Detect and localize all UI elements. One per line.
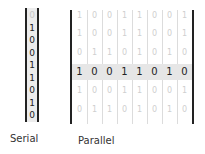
serial-bit: 0 xyxy=(27,85,37,95)
parallel-bit: 0 xyxy=(102,64,117,80)
parallel-bit: 1 xyxy=(177,83,192,99)
parallel-bit: 1 xyxy=(72,64,87,80)
parallel-bit: 0 xyxy=(147,8,162,24)
parallel-bit: 1 xyxy=(117,64,132,80)
parallel-bit: 1 xyxy=(132,45,147,61)
parallel-bit: 0 xyxy=(102,26,117,42)
parallel-bit: 0 xyxy=(177,64,192,80)
parallel-bit: 0 xyxy=(147,26,162,42)
parallel-bit: 0 xyxy=(117,45,132,61)
parallel-bit: 0 xyxy=(177,45,192,61)
parallel-bit: 0 xyxy=(102,8,117,24)
serial-bit: 0 xyxy=(27,10,37,20)
parallel-bit: 0 xyxy=(147,83,162,99)
serial-bit: 1 xyxy=(27,23,37,33)
serial-bit: 0 xyxy=(27,35,37,45)
parallel-bit: 0 xyxy=(117,102,132,118)
parallel-row: 10011001 xyxy=(72,8,192,24)
parallel-bit: 1 xyxy=(132,26,147,42)
parallel-bit: 1 xyxy=(132,102,147,118)
parallel-bit: 1 xyxy=(72,26,87,42)
parallel-bit: 0 xyxy=(72,102,87,118)
parallel-bit: 1 xyxy=(117,26,132,42)
parallel-bit: 1 xyxy=(177,8,192,24)
parallel-bit: 1 xyxy=(87,102,102,118)
parallel-bit: 0 xyxy=(87,64,102,80)
parallel-row: 01101010 xyxy=(72,102,192,118)
parallel-bit: 0 xyxy=(147,45,162,61)
serial-bit: 1 xyxy=(27,73,37,83)
parallel-bit: 1 xyxy=(177,26,192,42)
parallel-bit: 0 xyxy=(177,102,192,118)
parallel-bit: 1 xyxy=(132,83,147,99)
parallel-bit: 1 xyxy=(162,45,177,61)
parallel-bit: 0 xyxy=(162,83,177,99)
parallel-bit: 0 xyxy=(147,64,162,80)
parallel-bit: 0 xyxy=(162,8,177,24)
parallel-bit: 1 xyxy=(117,83,132,99)
parallel-row: 10011001 xyxy=(72,83,192,99)
parallel-bit: 0 xyxy=(162,26,177,42)
parallel-bit: 1 xyxy=(72,83,87,99)
parallel-row: 10011001 xyxy=(72,26,192,42)
parallel-bit: 0 xyxy=(87,8,102,24)
serial-column: 010011010 xyxy=(25,8,39,122)
parallel-row-active: 10011010 xyxy=(72,64,192,80)
parallel-bit: 1 xyxy=(162,102,177,118)
parallel-bit: 1 xyxy=(162,64,177,80)
parallel-label: Parallel xyxy=(78,135,114,146)
parallel-bit: 1 xyxy=(72,8,87,24)
serial-label: Serial xyxy=(10,133,38,144)
parallel-row: 01101010 xyxy=(72,45,192,61)
parallel-bit: 0 xyxy=(87,26,102,42)
parallel-bit: 1 xyxy=(102,102,117,118)
parallel-bit: 1 xyxy=(117,8,132,24)
serial-bit: 1 xyxy=(27,60,37,70)
parallel-bit: 0 xyxy=(87,83,102,99)
parallel-bit: 0 xyxy=(102,83,117,99)
serial-bit: 0 xyxy=(27,48,37,58)
parallel-bit: 1 xyxy=(87,45,102,61)
parallel-bit: 0 xyxy=(72,45,87,61)
serial-bit: 1 xyxy=(27,98,37,108)
parallel-grid: 1001100110011001011010101001101010011001… xyxy=(70,10,194,124)
parallel-bit: 1 xyxy=(132,64,147,80)
parallel-bit: 1 xyxy=(102,45,117,61)
serial-bit: 0 xyxy=(27,110,37,120)
parallel-bit: 1 xyxy=(132,8,147,24)
parallel-bit: 0 xyxy=(147,102,162,118)
